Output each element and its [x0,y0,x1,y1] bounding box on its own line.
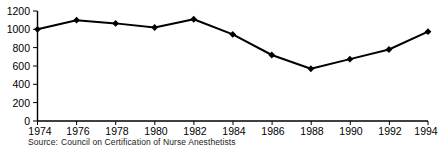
source-text: Council on Certification of Nurse Anesth… [61,137,236,147]
x-axis-group: 1974 1976 1978 1980 1982 1984 1986 1988 … [28,121,438,137]
y-tick-label-400: 400 [12,78,30,90]
data-point-1982 [190,16,197,23]
y-tick-label-200: 200 [12,97,30,109]
data-point-1976 [73,17,80,24]
x-tick-label-1988: 1988 [300,125,324,137]
data-point-1978 [112,20,119,27]
data-point-1990 [347,56,354,63]
data-point-1974 [34,26,41,33]
y-tick-label-600: 600 [12,60,30,72]
data-point-1994 [425,28,432,35]
data-markers-series-0 [34,16,431,72]
chart-figure: 1200 1000 800 600 400 200 0 [0,0,439,155]
y-tick-label-1200: 1200 [7,5,31,17]
x-tick-label-1992: 1992 [378,125,402,137]
x-tick-label-1994: 1994 [414,125,438,137]
data-point-1988 [307,65,314,72]
y-tick-label-800: 800 [12,42,30,54]
x-tick-label-1986: 1986 [261,125,285,137]
data-point-1992 [386,46,393,53]
data-point-1980 [151,24,158,31]
data-line-series-0 [38,19,429,69]
x-tick-label-1984: 1984 [222,125,246,137]
line-chart: 1200 1000 800 600 400 200 0 [0,0,439,155]
x-tick-label-1978: 1978 [105,125,129,137]
x-tick-label-1982: 1982 [183,125,207,137]
x-tick-label-1990: 1990 [339,125,363,137]
x-tick-label-1980: 1980 [144,125,168,137]
y-tick-label-1000: 1000 [7,23,31,35]
x-tick-label-1974: 1974 [28,125,52,137]
source-note: Source:Council on Certification of Nurse… [28,137,236,147]
x-tick-label-1976: 1976 [66,125,90,137]
source-label: Source: [28,137,58,147]
y-axis-group: 1200 1000 800 600 400 200 0 [7,5,38,127]
